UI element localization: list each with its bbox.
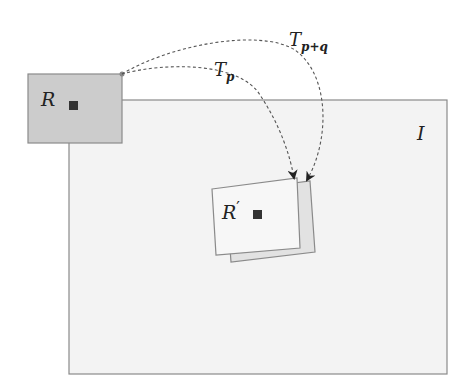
source-region-label: R	[40, 88, 55, 110]
diagram-canvas: I R R′ Tp Tp+q	[0, 0, 464, 386]
target-center-marker	[253, 210, 262, 219]
transform-label-tp: Tp	[214, 59, 235, 84]
transform-label-tpq: Tp+q	[289, 29, 328, 54]
image-frame-label: I	[416, 122, 425, 144]
source-center-marker	[69, 101, 78, 110]
